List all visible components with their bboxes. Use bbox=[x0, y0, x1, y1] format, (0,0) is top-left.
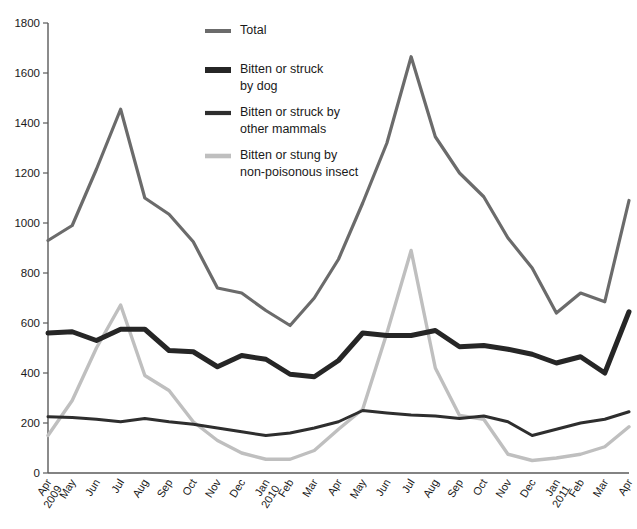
x-tick-label: Oct bbox=[180, 477, 199, 498]
line-chart: 020040060080010001200140016001800 Apr200… bbox=[0, 0, 637, 529]
x-tick-label: Sep bbox=[154, 477, 175, 500]
y-tick-label: 0 bbox=[34, 467, 40, 479]
x-tick-label-group: May bbox=[57, 476, 78, 500]
x-tick-label: Mar bbox=[300, 476, 320, 499]
x-tick-label: Apr bbox=[615, 476, 634, 497]
x-tick-label-group: Apr bbox=[615, 476, 634, 497]
x-tick-label-group: Nov bbox=[493, 476, 514, 499]
x-tick-label-group: Feb bbox=[276, 477, 296, 499]
x-tick-label: Jul bbox=[109, 477, 127, 495]
y-tick-label: 800 bbox=[21, 267, 40, 279]
legend-label-3: Bitten or struck by bbox=[240, 105, 341, 119]
legend-label-4-line2: non-poisonous insect bbox=[240, 165, 359, 179]
legend-label-2: Bitten or struck bbox=[240, 62, 324, 76]
x-tick-label: Aug bbox=[420, 477, 441, 500]
y-tick-label: 600 bbox=[21, 317, 40, 329]
x-tick-label: May bbox=[57, 476, 78, 500]
x-tick-label-group: Dec bbox=[517, 476, 538, 499]
x-tick-label: Mar bbox=[590, 476, 610, 499]
x-tick-label: Apr bbox=[325, 476, 344, 497]
y-axis: 020040060080010001200140016001800 bbox=[14, 17, 48, 479]
x-tick-label: Nov bbox=[493, 476, 514, 499]
x-tick-label-group: Mar bbox=[300, 476, 320, 499]
x-tick-label: May bbox=[347, 476, 368, 500]
x-tick-label-group: Aug bbox=[420, 477, 441, 500]
chart-canvas: 020040060080010001200140016001800 Apr200… bbox=[0, 0, 637, 529]
x-tick-label-group: Nov bbox=[203, 476, 224, 499]
legend-label-2-line2: by dog bbox=[240, 79, 278, 93]
series-line-1 bbox=[48, 57, 629, 326]
x-tick-label: Nov bbox=[203, 476, 224, 499]
x-tick-label-group: Sep bbox=[445, 477, 466, 500]
y-tick-label: 1600 bbox=[14, 67, 40, 79]
legend-label-3-line2: other mammals bbox=[240, 122, 326, 136]
x-tick-label-group: May bbox=[347, 476, 368, 500]
x-tick-label-group: Aug bbox=[130, 477, 151, 500]
y-tick-label: 200 bbox=[21, 417, 40, 429]
x-tick-label-group: Apr bbox=[325, 476, 344, 497]
x-tick-label-group: Dec bbox=[227, 476, 248, 499]
x-tick-label: Oct bbox=[470, 477, 489, 498]
x-tick-label: Sep bbox=[445, 477, 466, 500]
x-tick-label-group: Mar bbox=[590, 476, 610, 499]
x-tick-label-group: Oct bbox=[180, 477, 199, 498]
x-tick-label: Jun bbox=[83, 477, 103, 498]
chart-legend: TotalBitten or struckby dogBitten or str… bbox=[205, 23, 359, 179]
y-tick-label: 400 bbox=[21, 367, 40, 379]
x-tick-label-group: Jun bbox=[373, 477, 393, 498]
x-tick-label: Jun bbox=[373, 477, 393, 498]
x-tick-label: Feb bbox=[566, 477, 586, 499]
y-tick-label: 1800 bbox=[14, 17, 40, 29]
legend-label-1: Total bbox=[240, 23, 266, 37]
x-tick-label: Dec bbox=[227, 476, 248, 499]
x-tick-label: Feb bbox=[276, 477, 296, 499]
x-tick-label-group: Sep bbox=[154, 477, 175, 500]
x-tick-label-group: Oct bbox=[470, 477, 489, 498]
x-tick-label-group: Jul bbox=[109, 477, 127, 495]
x-tick-label: Aug bbox=[130, 477, 151, 500]
y-tick-label: 1000 bbox=[14, 217, 40, 229]
x-tick-label: Jul bbox=[399, 477, 417, 495]
x-axis: Apr2009MayJunJulAugSepOctNovDecJan2010Fe… bbox=[31, 473, 635, 510]
x-tick-label-group: Jul bbox=[399, 477, 417, 495]
x-tick-label-group: Jun bbox=[83, 477, 103, 498]
y-tick-label: 1400 bbox=[14, 117, 40, 129]
x-tick-label: Dec bbox=[517, 476, 538, 499]
series-line-3 bbox=[48, 411, 629, 436]
legend-label-4: Bitten or stung by bbox=[240, 148, 338, 162]
y-tick-label: 1200 bbox=[14, 167, 40, 179]
x-tick-label-group: Feb bbox=[566, 477, 586, 499]
